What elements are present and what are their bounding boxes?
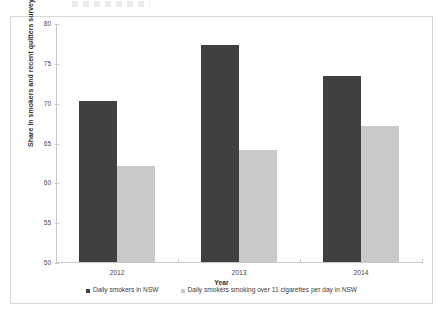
y-axis-tick [55, 24, 59, 25]
x-axis-label-2014: 2014 [300, 270, 422, 277]
bar-2014-series-2[interactable] [361, 126, 399, 262]
y-axis-tick [55, 223, 59, 224]
legend-swatch-icon [181, 289, 185, 293]
y-axis-tick-label: 75 [44, 61, 51, 68]
x-axis-label-2013: 2013 [178, 270, 300, 277]
legend-item-heavy-smokers[interactable]: Daily smokers smoking over 11 cigarettes… [181, 287, 358, 294]
x-axis-separator [422, 259, 423, 263]
y-axis-tick-label: 60 [44, 180, 51, 187]
bar-2013-series-1[interactable] [201, 45, 239, 262]
x-axis-label-2012: 2012 [56, 270, 178, 277]
y-axis-tick [55, 183, 59, 184]
legend-swatch-icon [86, 289, 90, 293]
plot-area: 50556065707580 201220132014 [56, 24, 422, 263]
bar-2014-series-1[interactable] [323, 76, 361, 262]
legend-label: Daily smokers smoking over 11 cigarettes… [188, 287, 358, 294]
y-axis-tick-label: 50 [44, 260, 51, 267]
x-axis-separator [178, 259, 179, 263]
y-axis-tick [55, 104, 59, 105]
scan-artifact [72, 1, 150, 7]
legend-item-daily-smokers[interactable]: Daily smokers in NSW [86, 287, 159, 294]
y-axis-tick-label: 70 [44, 100, 51, 107]
y-axis-tick [55, 144, 59, 145]
chart-frame: Share in smokers and recent quitters sur… [10, 16, 433, 304]
y-axis-tick [55, 263, 59, 264]
legend-label: Daily smokers in NSW [93, 287, 159, 294]
bar-2012-series-1[interactable] [79, 101, 117, 262]
x-axis-separator [300, 259, 301, 263]
y-axis-tick-label: 65 [44, 140, 51, 147]
y-axis-tick-label: 55 [44, 220, 51, 227]
bar-2013-series-2[interactable] [239, 150, 277, 262]
x-axis-line [56, 262, 422, 263]
y-axis-tick [55, 64, 59, 65]
plot-inner: 50556065707580 [56, 24, 422, 263]
y-axis-tick-label: 80 [44, 21, 51, 28]
bar-2012-series-2[interactable] [117, 166, 155, 262]
y-axis-title: Share in smokers and recent quitters sur… [27, 0, 34, 147]
chart-legend: Daily smokers in NSW Daily smokers smoki… [11, 287, 432, 294]
chart-screenshot: Share in smokers and recent quitters sur… [0, 0, 443, 315]
